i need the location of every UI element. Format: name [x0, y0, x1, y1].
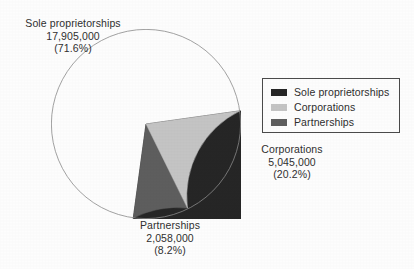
callout-sole-percent: (71.6%) — [9, 42, 137, 55]
callout-corporations: Corporations 5,045,000 (20.2%) — [240, 143, 344, 181]
legend-swatch-partnerships — [271, 119, 287, 126]
legend-swatch-sole-proprietorships — [271, 89, 287, 96]
callout-sole-value: 17,905,000 — [9, 30, 137, 43]
callout-partnerships-value: 2,058,000 — [111, 232, 229, 245]
callout-sole-proprietorships: Sole proprietorships 17,905,000 (71.6%) — [9, 17, 137, 55]
chart-legend: Sole proprietorships Corporations Partne… — [262, 78, 400, 133]
legend-label-corporations: Corporations — [294, 102, 355, 113]
callout-corporations-name: Corporations — [240, 143, 344, 156]
legend-label-partnerships: Partnerships — [294, 117, 354, 128]
callout-partnerships: Partnerships 2,058,000 (8.2%) — [111, 219, 229, 257]
callout-sole-name: Sole proprietorships — [9, 17, 137, 30]
pie-chart-svg — [51, 29, 241, 219]
legend-swatch-corporations — [271, 104, 287, 111]
chart-canvas: Sole proprietorships 17,905,000 (71.6%) … — [0, 0, 414, 269]
legend-label-sole-proprietorships: Sole proprietorships — [294, 87, 389, 98]
legend-item-corporations[interactable]: Corporations — [271, 100, 399, 115]
callout-partnerships-name: Partnerships — [111, 219, 229, 232]
pie-chart — [51, 29, 241, 219]
callout-corporations-value: 5,045,000 — [240, 156, 344, 169]
legend-item-sole-proprietorships[interactable]: Sole proprietorships — [271, 85, 399, 100]
callout-partnerships-percent: (8.2%) — [111, 244, 229, 257]
callout-corporations-percent: (20.2%) — [240, 168, 344, 181]
legend-item-partnerships[interactable]: Partnerships — [271, 115, 399, 130]
